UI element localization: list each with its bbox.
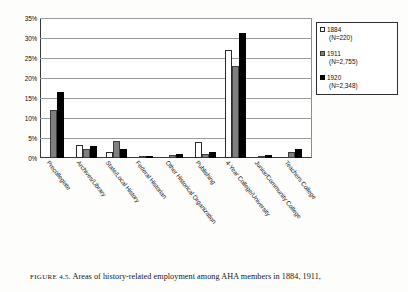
bar-group (131, 18, 161, 158)
bar (295, 149, 302, 158)
gray-square-icon (320, 51, 325, 56)
bar (76, 145, 83, 158)
bar (50, 110, 57, 158)
y-tick-label: 10% (25, 115, 37, 122)
figure-caption-text: Areas of history-related employment amon… (73, 272, 321, 281)
bar (169, 155, 176, 158)
bar-group (221, 18, 251, 158)
legend-series-count: (N=2,348) (327, 82, 358, 90)
bar (106, 152, 113, 158)
bar-group (250, 18, 280, 158)
x-tick-label: Archives/Library (75, 159, 107, 198)
bars-layer (40, 18, 312, 158)
y-tick-label: 5% (28, 135, 37, 142)
legend-series-count: (N=220) (327, 34, 352, 42)
x-tick-label: Precollegiate (45, 159, 72, 191)
bar (113, 141, 120, 158)
figure-caption-prefix: FIGURE 4.5. (30, 273, 71, 281)
bar (209, 152, 216, 158)
x-axis-labels: PrecollegiateArchives/LibraryState/Local… (40, 159, 312, 254)
legend-item: 1884 (N=220) (320, 26, 394, 43)
black-square-icon (320, 75, 325, 80)
bar (83, 149, 90, 158)
bar-group (72, 18, 102, 158)
bar (90, 146, 97, 158)
x-tick-label: Publishing (194, 159, 217, 185)
legend-series-name: 1920 (327, 74, 341, 81)
bar (195, 142, 202, 158)
bar-group (161, 18, 191, 158)
legend-series-count: (N=2,755) (327, 58, 358, 66)
legend-label: 1884 (N=220) (327, 26, 352, 43)
y-tick-label: 30% (25, 35, 37, 42)
y-tick-label: 15% (25, 95, 37, 102)
legend-series-name: 1884 (327, 26, 341, 33)
y-tick-label: 20% (25, 75, 37, 82)
bar (239, 33, 246, 158)
plot-area (40, 18, 312, 158)
white-square-icon (320, 27, 325, 32)
bar (57, 92, 64, 158)
figure-caption: FIGURE 4.5. Areas of history-related emp… (30, 272, 390, 282)
chart-legend: 1884 (N=220) 1911 (N=2,755) 1920 (N=2,34… (316, 22, 398, 95)
x-tick-label: Federal Historian (135, 159, 169, 200)
legend-label: 1920 (N=2,348) (327, 74, 358, 91)
legend-series-name: 1911 (327, 50, 341, 57)
y-tick-label: 0% (28, 155, 37, 162)
bar (265, 155, 272, 158)
y-tick-label: 35% (25, 15, 37, 22)
x-tick-label: Teachers College (284, 159, 318, 200)
x-tick-label: Other Historical Organization (164, 159, 218, 225)
figure-4-5: 35%30%25%20%15%10%5%0% PrecollegiateArch… (0, 0, 408, 292)
bar (232, 66, 239, 158)
bar (258, 156, 265, 158)
bar (176, 154, 183, 158)
y-tick-label: 25% (25, 55, 37, 62)
legend-label: 1911 (N=2,755) (327, 50, 358, 67)
bar-group (102, 18, 132, 158)
bar (139, 156, 146, 158)
legend-item: 1920 (N=2,348) (320, 74, 394, 91)
bar-group (280, 18, 310, 158)
legend-item: 1911 (N=2,755) (320, 50, 394, 67)
y-axis: 35%30%25%20%15%10%5%0% (0, 18, 37, 158)
bar (120, 149, 127, 158)
bar-group (42, 18, 72, 158)
bar (146, 156, 153, 158)
bar (202, 154, 209, 158)
bar (288, 152, 295, 158)
bar (225, 50, 232, 158)
bar-group (191, 18, 221, 158)
